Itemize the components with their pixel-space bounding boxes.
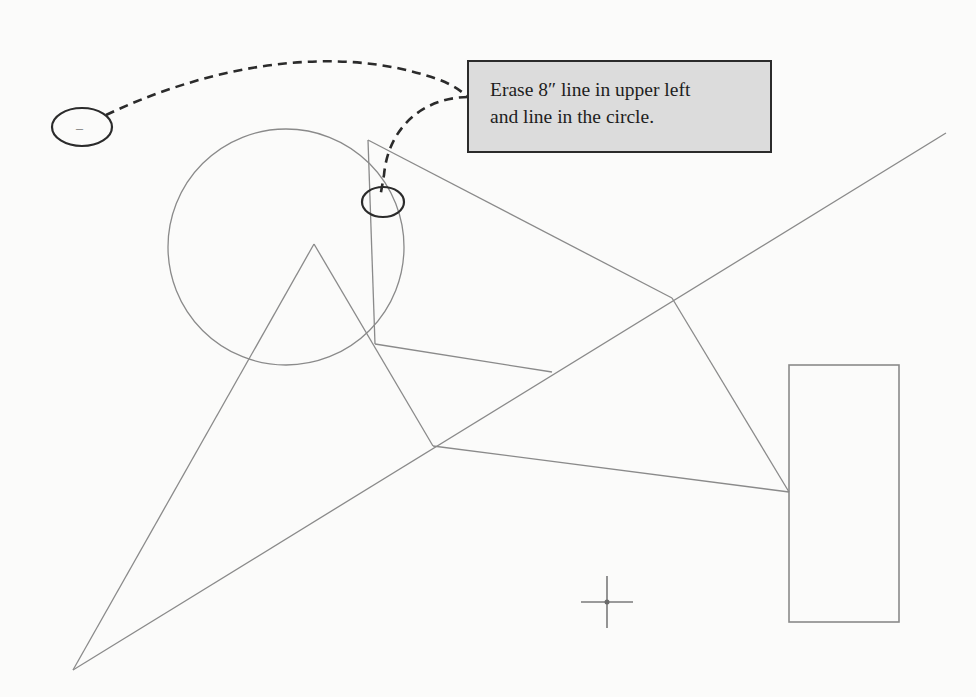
dashed-leader-circle-line	[380, 97, 468, 198]
line-vertical-in-circle	[368, 140, 375, 344]
instruction-callout: Erase 8″ line in upper left and line in …	[467, 60, 772, 153]
line-center-to-diagonal	[375, 344, 552, 372]
line-triangle-left-leg	[73, 244, 314, 670]
callout-line-1: Erase 8″ line in upper left	[490, 76, 760, 103]
line-circle-top-to-junction	[368, 140, 672, 298]
line-junction-to-rectangle	[672, 298, 789, 492]
line-triangle-right-leg	[314, 244, 433, 446]
drawing-lines	[73, 133, 946, 670]
callout-line-2: and line in the circle.	[490, 103, 760, 130]
erase-mark-text: –	[75, 121, 84, 136]
crosshair-cursor-icon	[581, 576, 633, 628]
circle-line-erase-ellipse	[362, 187, 404, 217]
tall-rectangle	[789, 365, 899, 622]
dashed-leader-upper-left	[106, 61, 468, 115]
line-lower-vertex-to-rectangle	[433, 446, 789, 492]
